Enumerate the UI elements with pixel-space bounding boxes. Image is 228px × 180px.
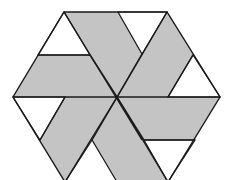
hexagon-pinwheel-diagram: [0, 0, 228, 180]
figure-canvas: [0, 0, 228, 180]
